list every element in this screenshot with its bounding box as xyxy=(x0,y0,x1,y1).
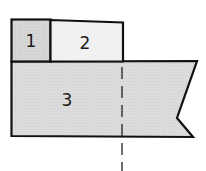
region-3-label: 3 xyxy=(62,90,73,110)
diagram-canvas: 3 1 2 xyxy=(0,0,206,171)
region-1: 1 xyxy=(12,20,51,62)
region-1-label: 1 xyxy=(26,31,37,51)
region-2-label: 2 xyxy=(80,33,91,53)
region-3: 3 xyxy=(12,61,198,137)
region-2: 2 xyxy=(51,20,124,62)
